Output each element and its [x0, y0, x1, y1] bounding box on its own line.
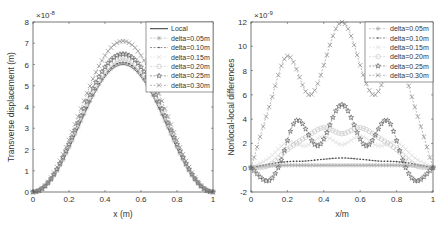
x-tick-label: 0.8 — [171, 195, 183, 204]
x-tick-label: 0.2 — [63, 195, 75, 204]
figure-canvas: 00.20.40.60.81012345678 ×10-8 x (m) Tran… — [0, 0, 446, 229]
legend-label: delta=0.25m — [390, 63, 429, 70]
legend-label: delta=0.30m — [171, 82, 210, 89]
legend-label: delta=0.20m — [171, 63, 210, 70]
legend-label: delta=0.15m — [390, 44, 429, 51]
right-plot: 00.20.40.60.81-2024681012 ×10-9 x/m Nonl… — [226, 10, 436, 219]
legend-label: delta=0.25m — [171, 72, 210, 79]
right-legend: delta=0.05mdelta=0.10mdelta=0.15mdelta=0… — [365, 22, 433, 82]
y-tick-label: 8 — [243, 67, 248, 76]
legend-label: delta=0.05m — [171, 35, 210, 42]
y-tick-label: 3 — [25, 124, 30, 133]
left-x-axis-label: x (m) — [113, 209, 133, 219]
legend-label: delta=0.10m — [171, 44, 210, 51]
y-tick-label: 2 — [25, 146, 30, 155]
left-legend: Localdelta=0.05mdelta=0.10mdelta=0.15mde… — [146, 22, 213, 92]
x-tick-label: 0.2 — [282, 195, 294, 204]
x-tick-label: 0.4 — [99, 195, 111, 204]
x-tick-label: 0 — [249, 195, 254, 204]
x-tick-label: 0.4 — [318, 195, 330, 204]
left-exponent: ×10-8 — [36, 10, 56, 20]
legend-label: delta=0.15m — [171, 54, 210, 61]
legend-entry: delta=0.20m — [150, 63, 210, 70]
legend-label: delta=0.05m — [390, 25, 429, 32]
right-exponent: ×10-9 — [254, 10, 274, 20]
right-y-axis-label: Nonlocal-local differences — [226, 58, 236, 155]
x-tick-label: 1 — [211, 195, 216, 204]
legend-label: delta=0.20m — [390, 53, 429, 60]
left-plot: 00.20.40.60.81012345678 ×10-8 x (m) Tran… — [6, 10, 216, 219]
y-tick-label: 4 — [25, 103, 30, 112]
x-tick-label: 1 — [431, 195, 436, 204]
y-tick-label: 7 — [25, 39, 30, 48]
legend-entry: delta=0.20m — [369, 53, 429, 60]
right-x-axis-label: x/m — [335, 209, 349, 219]
y-tick-label: 8 — [25, 18, 30, 27]
y-tick-label: 6 — [243, 91, 248, 100]
y-tick-label: 10 — [238, 42, 247, 51]
legend-label: delta=0.10m — [390, 35, 429, 42]
y-tick-label: 1 — [25, 167, 30, 176]
x-tick-label: 0.6 — [355, 195, 367, 204]
legend-label: Local — [171, 25, 188, 32]
series-delta-0-25m — [249, 102, 436, 183]
y-tick-label: 2 — [243, 139, 248, 148]
y-tick-label: 12 — [238, 18, 247, 27]
y-tick-label: 5 — [25, 82, 30, 91]
y-tick-label: 0 — [25, 188, 30, 197]
x-tick-label: 0.8 — [391, 195, 403, 204]
legend-label: delta=0.30m — [390, 72, 429, 79]
y-tick-label: 0 — [243, 164, 248, 173]
x-tick-label: 0.6 — [135, 195, 147, 204]
y-tick-label: 6 — [25, 61, 30, 70]
x-tick-label: 0 — [31, 195, 36, 204]
left-y-axis-label: Transverse displacement (m) — [6, 52, 16, 162]
y-tick-label: -2 — [240, 188, 248, 197]
y-tick-label: 4 — [243, 115, 248, 124]
